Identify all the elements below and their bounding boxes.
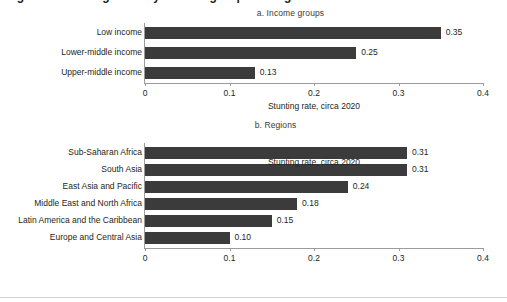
x-axis-tick-label: 0.3: [393, 253, 405, 263]
x-axis-tick-label: 0: [143, 253, 148, 263]
bar-value-label: 0.25: [361, 46, 378, 59]
bar: [145, 67, 255, 79]
bar-row: Latin America and the Caribbean0.15: [145, 215, 483, 227]
bar: [145, 198, 297, 210]
x-axis-tick: [483, 83, 484, 86]
x-axis-tick-label: 0: [143, 88, 148, 98]
bar-value-label: 0.18: [302, 197, 319, 210]
bar: [145, 47, 356, 59]
panel-a-axis-title: Stunting rate, circa 2020: [145, 101, 483, 111]
panel-regions: b. Regions Sub-Saharan Africa0.31South A…: [0, 120, 507, 292]
bar-row: Lower-middle income0.25: [145, 47, 483, 59]
x-axis-tick: [314, 83, 315, 86]
category-label: East Asia and Pacific: [63, 180, 142, 193]
x-axis-tick-label: 0.4: [477, 88, 489, 98]
x-axis-tick-label: 0.4: [477, 253, 489, 263]
x-axis-tick-label: 0.1: [224, 253, 236, 263]
x-axis-tick: [399, 248, 400, 251]
bar-value-label: 0.10: [235, 231, 252, 244]
category-label: Europe and Central Asia: [50, 231, 142, 244]
bar: [145, 215, 272, 227]
bar-value-label: 0.35: [446, 26, 463, 39]
panel-income-groups: a. Income groups Low income0.35Lower-mid…: [0, 8, 507, 116]
x-axis-tick: [483, 248, 484, 251]
x-axis-tick: [314, 248, 315, 251]
bar-row: Upper-middle income0.13: [145, 67, 483, 79]
bar-row: East Asia and Pacific0.24: [145, 181, 483, 193]
category-label: Sub-Saharan Africa: [68, 146, 142, 159]
bar-value-label: 0.24: [353, 180, 370, 193]
figure-heading-clipped: Figure 1. Stunting rates by income group…: [6, 0, 501, 3]
figure-container: Figure 1. Stunting rates by income group…: [0, 0, 507, 302]
bottom-divider: [0, 297, 507, 298]
panel-a-title: a. Income groups: [0, 8, 507, 18]
y-axis-line: [144, 23, 145, 83]
category-label: Lower-middle income: [61, 46, 142, 59]
x-axis-tick: [230, 248, 231, 251]
category-label: South Asia: [101, 163, 142, 176]
x-axis-tick: [230, 83, 231, 86]
panel-a-plot-area: Low income0.35Lower-middle income0.25Upp…: [145, 27, 483, 95]
category-label: Upper-middle income: [61, 66, 142, 79]
x-axis-tick-label: 0.2: [308, 253, 320, 263]
x-axis-tick-label: 0.2: [308, 88, 320, 98]
bar-row: Low income0.35: [145, 27, 483, 39]
category-label: Low income: [97, 26, 142, 39]
x-axis-tick: [145, 83, 146, 86]
x-axis-tick: [145, 248, 146, 251]
bar-value-label: 0.13: [260, 66, 277, 79]
bar-value-label: 0.15: [277, 214, 294, 227]
category-label: Middle East and North Africa: [34, 197, 142, 210]
x-axis-tick-label: 0.3: [393, 88, 405, 98]
bar: [145, 232, 230, 244]
x-axis-tick-label: 0.1: [224, 88, 236, 98]
bar-row: Europe and Central Asia0.10: [145, 232, 483, 244]
category-label: Latin America and the Caribbean: [18, 214, 142, 227]
bar: [145, 27, 441, 39]
x-axis-tick: [399, 83, 400, 86]
bar: [145, 181, 348, 193]
panel-b-title: b. Regions: [0, 120, 507, 130]
panel-b-axis-title: Stunting rate, circa 2020: [145, 157, 483, 167]
bar-row: Middle East and North Africa0.18: [145, 198, 483, 210]
